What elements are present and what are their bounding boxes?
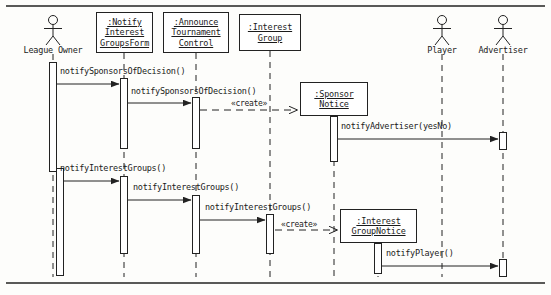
participant-label-line: :Sponsor bbox=[314, 89, 353, 100]
participant-box-interest-group[interactable]: :Interest Group bbox=[239, 14, 301, 51]
activation-bar-league-owner-2 bbox=[56, 168, 64, 276]
participant-label-player: Player bbox=[412, 45, 472, 55]
sequence-diagram-canvas: :Notify Interest GroupsForm :Announce To… bbox=[0, 0, 551, 295]
actor-icon-player bbox=[433, 16, 451, 46]
activation-bar-advertiser-2 bbox=[499, 259, 507, 277]
activation-bar-league-owner-1 bbox=[49, 62, 57, 172]
participant-label-line: :Announce bbox=[174, 17, 218, 28]
participant-label-line: Tournament bbox=[171, 27, 220, 38]
message-label-notify-interest-groups-1: notifyInterestGroups() bbox=[60, 163, 166, 173]
participant-box-interest-group-notice[interactable]: :Interest GroupNotice bbox=[340, 209, 417, 243]
activation-bar-announce-control-2 bbox=[192, 195, 200, 254]
participant-label-line: Group bbox=[258, 33, 283, 44]
message-label-notify-interest-groups-3: notifyInterestGroups() bbox=[205, 202, 311, 212]
activation-bar-notify-form-1 bbox=[120, 78, 128, 149]
message-label-notify-sponsors-of-decision-1: notifySponsorsOfDecision() bbox=[60, 66, 185, 76]
participant-label-line: :Interest bbox=[248, 22, 292, 33]
actor-icon-advertiser bbox=[494, 16, 512, 46]
participant-label-line: GroupsForm bbox=[100, 38, 149, 49]
message-label-notify-advertiser: notifyAdvertiser(yesNo) bbox=[341, 121, 452, 131]
participant-label-line: GroupNotice bbox=[351, 226, 405, 237]
participant-label-league-owner: League Owner bbox=[13, 45, 93, 55]
message-label-notify-player: notifyPlayer() bbox=[386, 248, 453, 258]
participant-label-advertiser: Advertiser bbox=[468, 45, 538, 55]
participant-label-line: :Interest bbox=[356, 216, 400, 227]
participant-label-line: Control bbox=[179, 38, 213, 49]
message-label-notify-sponsors-of-decision-2: notifySponsorsOfDecision() bbox=[131, 86, 256, 96]
activation-bar-notify-form-2 bbox=[120, 176, 128, 254]
participant-box-announce-tournament-control[interactable]: :Announce Tournament Control bbox=[163, 12, 229, 53]
activation-bar-interest-group-notice bbox=[374, 243, 382, 274]
actor-icon-league-owner bbox=[44, 16, 62, 46]
participant-label-line: Interest bbox=[105, 27, 144, 38]
activation-bar-advertiser-1 bbox=[499, 132, 507, 150]
message-label-notify-interest-groups-2: notifyInterestGroups() bbox=[133, 182, 239, 192]
participant-box-notify-interest-groups-form[interactable]: :Notify Interest GroupsForm bbox=[96, 12, 153, 53]
participant-label-line: :Notify bbox=[107, 17, 141, 28]
activation-bar-announce-control-1 bbox=[192, 97, 200, 149]
message-label-create-interest-group-notice: «create» bbox=[281, 220, 317, 229]
message-label-create-sponsor-notice: «create» bbox=[231, 99, 267, 108]
activation-bar-interest-group bbox=[266, 214, 274, 254]
activation-bar-sponsor-notice bbox=[330, 116, 338, 162]
participant-label-line: Notice bbox=[319, 99, 349, 110]
participant-box-sponsor-notice[interactable]: :Sponsor Notice bbox=[300, 82, 368, 116]
